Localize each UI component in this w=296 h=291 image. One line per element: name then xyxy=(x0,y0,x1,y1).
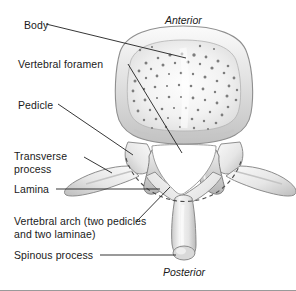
label-transverse-process: Transverse process xyxy=(14,150,67,175)
label-posterior-orientation: Posterior xyxy=(163,266,205,278)
label-lamina: Lamina xyxy=(14,183,49,196)
label-body: Body xyxy=(24,19,48,32)
vertebra-illustration xyxy=(0,0,296,291)
spinous-process-group xyxy=(172,195,196,260)
label-spinous-process: Spinous process xyxy=(14,249,93,262)
leader-transverse-process xyxy=(84,157,112,173)
label-anterior-orientation: Anterior xyxy=(165,14,202,26)
label-vertebral-foramen: Vertebral foramen xyxy=(18,58,103,71)
label-vertebral-arch: Vertebral arch (two pedicles and two lam… xyxy=(14,215,146,240)
label-pedicle: Pedicle xyxy=(18,99,53,112)
vertebral-body-group xyxy=(115,26,252,144)
vertebra-diagram-figure: Body Vertebral foramen Pedicle Transvers… xyxy=(0,0,296,291)
